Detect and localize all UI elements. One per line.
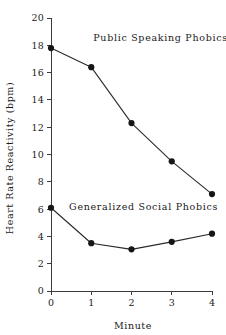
y-tick-label-12: 12 xyxy=(32,122,45,133)
y-tick-label-4: 4 xyxy=(38,231,44,242)
marker-generalized-social-phobics-x0 xyxy=(48,205,54,211)
series-annotation-layer: Public Speaking PhobicsGeneralized Socia… xyxy=(69,32,226,212)
line-chart-svg: 02468101214161820 01234 Minute Heart Rat… xyxy=(0,0,226,335)
marker-generalized-social-phobics-x1 xyxy=(88,240,94,246)
y-tick-label-10: 10 xyxy=(32,149,45,160)
marker-public-speaking-phobics-x1 xyxy=(88,64,94,70)
x-axis-tick-labels: 01234 xyxy=(48,297,215,308)
marker-public-speaking-phobics-x3 xyxy=(169,158,175,164)
marker-public-speaking-phobics-x4 xyxy=(209,191,215,197)
series-label-generalized-social-phobics: Generalized Social Phobics xyxy=(69,201,218,212)
marker-public-speaking-phobics-x2 xyxy=(128,120,134,126)
series-label-public-speaking-phobics: Public Speaking Phobics xyxy=(93,32,226,43)
y-tick-label-18: 18 xyxy=(32,40,45,51)
y-axis-ticks xyxy=(47,18,51,291)
y-tick-label-8: 8 xyxy=(38,176,44,187)
y-axis-group: 02468101214161820 xyxy=(32,12,52,296)
y-axis-tick-labels: 02468101214161820 xyxy=(32,12,45,296)
series-public-speaking-phobics xyxy=(48,45,215,197)
y-tick-label-20: 20 xyxy=(32,12,45,23)
marker-public-speaking-phobics-x0 xyxy=(48,45,54,51)
y-tick-label-0: 0 xyxy=(38,285,44,296)
x-tick-label-3: 3 xyxy=(169,297,175,308)
chart-figure: 02468101214161820 01234 Minute Heart Rat… xyxy=(0,0,226,335)
y-axis-title: Heart Rate Reactivity (bpm) xyxy=(4,82,15,234)
y-tick-label-6: 6 xyxy=(38,204,44,215)
x-tick-label-0: 0 xyxy=(48,297,54,308)
x-tick-label-2: 2 xyxy=(128,297,134,308)
series-layer xyxy=(48,45,215,253)
x-tick-label-1: 1 xyxy=(88,297,94,308)
marker-generalized-social-phobics-x4 xyxy=(209,231,215,237)
marker-generalized-social-phobics-x2 xyxy=(128,246,134,252)
x-tick-label-4: 4 xyxy=(209,297,215,308)
x-axis-title: Minute xyxy=(114,320,152,331)
series-line-generalized-social-phobics xyxy=(51,208,212,250)
x-axis-ticks xyxy=(51,291,212,295)
x-axis-group: 01234 xyxy=(48,291,215,308)
marker-generalized-social-phobics-x3 xyxy=(169,239,175,245)
y-tick-label-16: 16 xyxy=(32,67,45,78)
y-tick-label-2: 2 xyxy=(38,258,44,269)
y-tick-label-14: 14 xyxy=(32,94,45,105)
